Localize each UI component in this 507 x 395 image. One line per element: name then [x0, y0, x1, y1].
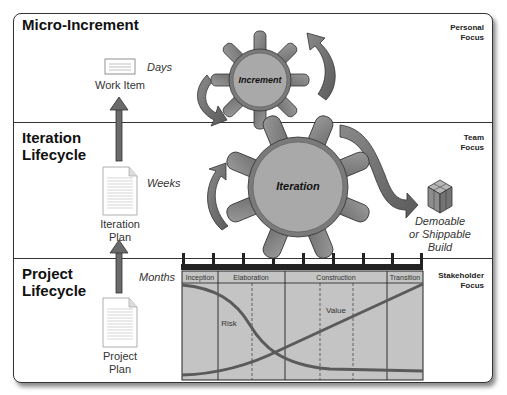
- phase-elaboration: Elaboration: [233, 274, 269, 281]
- build-box-icon: [428, 180, 452, 213]
- cycle-arrow-left-bottom: [208, 163, 228, 230]
- increment-gear: Increment: [211, 31, 309, 129]
- iteration-gear-label: Iteration: [276, 180, 320, 192]
- up-arrow-iteration-to-work-item: [110, 97, 128, 161]
- phase-transition: Transition: [390, 274, 421, 281]
- increment-gear-label: Increment: [238, 75, 282, 85]
- phase-chart: Inception Elaboration Construction Trans…: [182, 271, 423, 380]
- up-arrow-project-to-iteration: [110, 240, 128, 293]
- timeline-tick-bar: [181, 253, 423, 270]
- phase-construction: Construction: [316, 274, 355, 281]
- phase-inception: Inception: [186, 274, 215, 282]
- project-plan-document-icon: [103, 298, 137, 347]
- value-label: Value: [326, 306, 346, 315]
- work-item-icon: [105, 59, 135, 74]
- iteration-plan-document-icon: [103, 167, 137, 215]
- risk-label: Risk: [221, 319, 238, 328]
- diagram-artwork: Inception Elaboration Construction Trans…: [0, 0, 507, 395]
- cycle-arrow-right-top: [307, 33, 335, 100]
